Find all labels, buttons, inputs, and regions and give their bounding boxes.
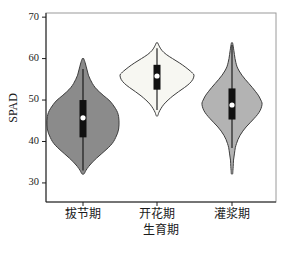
y-tick-label: 60 — [29, 52, 40, 63]
median-dot-1 — [80, 115, 85, 120]
y-tick-label: 70 — [29, 11, 40, 22]
x-tick-label: 拔节期 — [65, 206, 101, 221]
y-tick-label: 40 — [29, 135, 40, 146]
x-tick-label: 灌浆期 — [214, 206, 250, 221]
median-dot-3 — [229, 102, 234, 107]
y-tick-label: 50 — [29, 93, 40, 104]
y-tick-label: 30 — [29, 176, 40, 187]
y-axis-title: SPAD — [6, 93, 20, 123]
chart-canvas: 3040506070拔节期开花期灌浆期生育期SPAD — [0, 0, 282, 254]
median-dot-2 — [154, 73, 159, 78]
violin-chart-figure: 3040506070拔节期开花期灌浆期生育期SPAD — [0, 0, 282, 254]
x-axis-title: 生育期 — [143, 222, 179, 237]
x-tick-label: 开花期 — [139, 206, 175, 221]
